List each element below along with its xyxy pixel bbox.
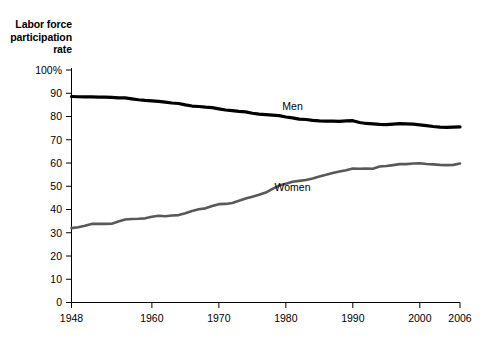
x-tick-label: 1960 bbox=[140, 312, 164, 324]
y-tick-label: 20 bbox=[50, 250, 62, 262]
series-label-women: Women bbox=[275, 181, 311, 193]
y-tick-label: 30 bbox=[50, 227, 62, 239]
chart-container: Labor force participation rate 100%90807… bbox=[0, 0, 487, 348]
y-tick-label: 60 bbox=[50, 157, 62, 169]
y-tick-label: 0 bbox=[56, 296, 62, 308]
x-tick-label: 1970 bbox=[207, 312, 231, 324]
x-axis-ticks: 1948196019701980199020002006 bbox=[60, 303, 472, 325]
x-tick-label: 2006 bbox=[448, 312, 472, 324]
y-axis-ticks: 100%9080706050403020100 bbox=[35, 64, 71, 308]
axis-lines bbox=[72, 68, 461, 303]
y-tick-label: 100% bbox=[35, 64, 62, 76]
series-paths bbox=[72, 97, 461, 229]
y-tick-label: 50 bbox=[50, 180, 62, 192]
series-line-men bbox=[72, 97, 461, 128]
y-tick-label: 10 bbox=[50, 273, 62, 285]
y-tick-label: 70 bbox=[50, 134, 62, 146]
series-line-women bbox=[72, 163, 461, 228]
x-tick-label: 1980 bbox=[274, 312, 298, 324]
x-tick-label: 2000 bbox=[408, 312, 432, 324]
x-tick-label: 1948 bbox=[60, 312, 84, 324]
x-tick-label: 1990 bbox=[341, 312, 365, 324]
series-label-men: Men bbox=[282, 100, 303, 112]
y-tick-label: 80 bbox=[50, 110, 62, 122]
y-tick-label: 90 bbox=[50, 87, 62, 99]
line-chart-plot: 100%9080706050403020100 1948196019701980… bbox=[0, 0, 487, 348]
y-tick-label: 40 bbox=[50, 203, 62, 215]
